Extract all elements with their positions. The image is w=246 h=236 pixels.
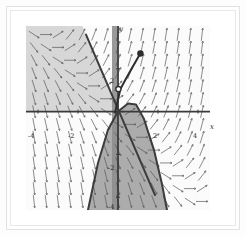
x-tick-label--2: -2 [68, 133, 74, 140]
y-tick-label--4: -4 [108, 204, 114, 211]
x-tick-label-2: 2 [153, 133, 157, 140]
plot-canvas [26, 26, 210, 210]
y-tick-label-2: 2 [110, 78, 114, 85]
marker-initial-condition-point [116, 87, 121, 92]
y-tick-label--2: -2 [108, 165, 114, 172]
x-tick-label--4: -4 [28, 133, 34, 140]
plot-area [26, 26, 210, 210]
x-axis-label: x [210, 124, 214, 131]
x-tick-label-4: 4 [193, 133, 197, 140]
marker-endpoint-point [138, 51, 143, 56]
figure-root: x y -4 -2 2 4 2 -2 -4 [0, 0, 246, 236]
y-axis-label: y [119, 26, 123, 33]
